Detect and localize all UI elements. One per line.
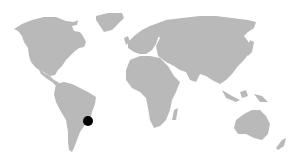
indonesia	[222, 90, 268, 102]
new-zealand	[276, 138, 286, 150]
location-marker	[83, 116, 93, 126]
land-masses	[14, 13, 286, 152]
africa	[126, 56, 180, 128]
madagascar	[172, 108, 178, 120]
north-america	[14, 17, 86, 76]
greenland	[96, 13, 124, 32]
world-map	[0, 0, 299, 163]
australia	[234, 110, 270, 140]
